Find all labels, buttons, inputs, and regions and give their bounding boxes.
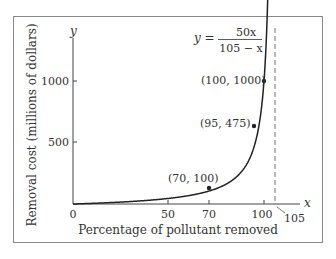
point-70-100 — [207, 186, 211, 190]
y-axis-title: Removal cost (millions of dollars) — [25, 23, 39, 226]
point-95-475 — [252, 124, 256, 128]
y-tick-1000: 1000 — [41, 75, 69, 88]
label-95-475: (95, 475) — [200, 117, 251, 130]
equation-lhs: y = — [193, 31, 215, 45]
label-100-1000: (100, 1000) — [201, 74, 266, 87]
x-tick-50: 50 — [161, 208, 175, 221]
x-axis-title: Percentage of pollutant removed — [78, 223, 278, 237]
y-tick-500: 500 — [48, 136, 69, 149]
equation-numerator: 50x — [236, 26, 257, 39]
x-tick-100: 100 — [252, 208, 273, 221]
y-axis-var: y — [69, 24, 77, 38]
chart: y x 1000 500 0 50 70 100 105 (70, 100) (… — [0, 0, 336, 259]
asymptote-label: 105 — [284, 212, 305, 225]
x-axis-var: x — [304, 196, 311, 210]
x-tick-0: 0 — [70, 208, 77, 221]
x-tick-70: 70 — [202, 208, 216, 221]
label-70-100: (70, 100) — [168, 172, 219, 185]
equation-denominator: 105 − x — [219, 42, 263, 55]
